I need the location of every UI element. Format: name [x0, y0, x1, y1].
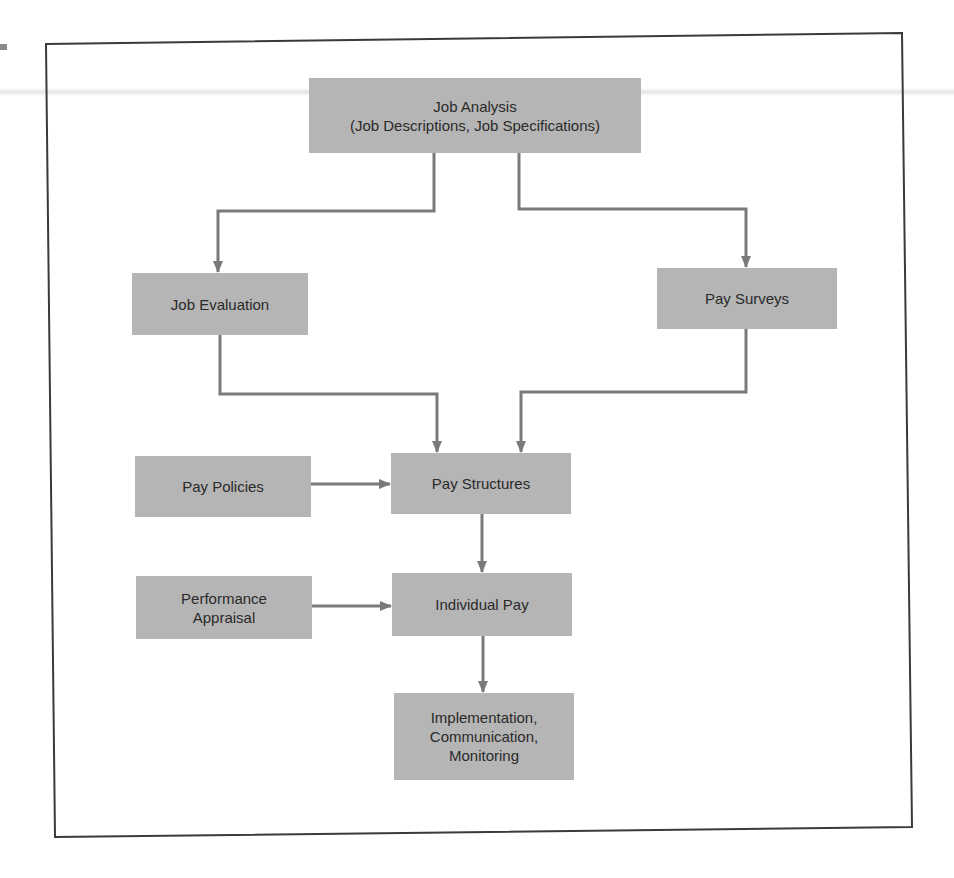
node-pay-structures: Pay Structures	[391, 453, 571, 514]
edge-job-analysis-to-job-evaluation	[218, 153, 434, 272]
node-performance-appraisal: Performance Appraisal	[136, 576, 312, 639]
edge-pay-surveys-to-pay-structures	[521, 329, 746, 452]
node-pay-surveys: Pay Surveys	[657, 268, 837, 329]
edge-job-evaluation-to-pay-structures	[220, 335, 437, 452]
node-label: Performance Appraisal	[181, 589, 267, 627]
edge-job-analysis-to-pay-surveys	[519, 153, 746, 267]
node-label: Pay Surveys	[705, 289, 789, 308]
node-individual-pay: Individual Pay	[392, 573, 572, 636]
node-job-evaluation: Job Evaluation	[132, 273, 308, 335]
node-label: Implementation, Communication, Monitorin…	[430, 708, 538, 765]
node-label: Pay Policies	[182, 477, 264, 496]
node-label: Individual Pay	[435, 595, 528, 614]
node-job-analysis: Job Analysis (Job Descriptions, Job Spec…	[309, 78, 641, 153]
node-label: Job Analysis (Job Descriptions, Job Spec…	[350, 97, 600, 135]
node-label: Pay Structures	[432, 474, 530, 493]
diagram-canvas: Job Analysis (Job Descriptions, Job Spec…	[0, 0, 954, 878]
node-pay-policies: Pay Policies	[135, 456, 311, 517]
node-implementation: Implementation, Communication, Monitorin…	[394, 693, 574, 780]
node-label: Job Evaluation	[171, 295, 269, 314]
